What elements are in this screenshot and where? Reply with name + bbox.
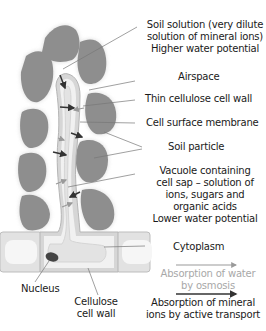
soil-particle [76,140,108,182]
label-cell-membrane: Cell surface membrane [146,117,259,129]
label-soil-solution: Soil solution (very dilute solution of m… [143,19,266,55]
soil-particle [21,51,53,102]
soil-particle [20,195,50,231]
label-line: solution of mineral ions) [143,31,266,43]
soil-particle [18,153,46,192]
soil-particle [78,39,107,84]
label-line: cell wall [64,308,128,320]
label-cytoplasm: Cytoplasm [173,241,224,253]
soil-particle [81,189,115,230]
label-line: Soil solution (very dilute [143,19,266,31]
legend-line: by osmosis [150,280,266,292]
label-line: Higher water potential [143,43,266,55]
label-line: Lower water potential [143,213,266,225]
label-thin-cell-wall: Thin cellulose cell wall [145,93,252,105]
label-cellulose-wall: Cellulose cell wall [64,296,128,320]
label-line: Cellulose [64,296,128,308]
label-airspace: Airspace [178,71,219,83]
label-line: cell sap – solution of [143,177,266,189]
legend-line: ions by active transport [140,309,266,321]
label-line: organic acids [143,201,266,213]
legend-mineral: Absorption of mineral ions by active tra… [140,297,266,321]
soil-particle [85,93,116,135]
legend-line: Absorption of mineral [140,297,266,309]
soil-particle [20,109,48,148]
label-line: Vacuole containing [143,165,266,177]
label-line: ions, sugars and [143,189,266,201]
label-nucleus: Nucleus [21,283,59,295]
label-vacuole: Vacuole containing cell sap – solution o… [143,165,266,225]
legend-water: Absorption of water by osmosis [150,268,266,292]
legend-line: Absorption of water [150,268,266,280]
label-soil-particle: Soil particle [168,141,224,153]
